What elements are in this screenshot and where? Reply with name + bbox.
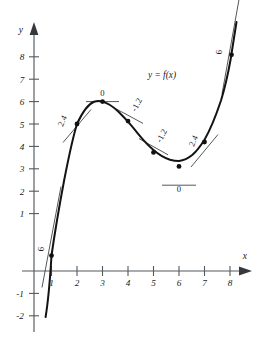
function-equation-label: y = f(x): [147, 70, 176, 81]
slope-label-at-x6: 0: [177, 184, 181, 194]
y-tick-label-neg2: -2: [16, 311, 24, 321]
point-at-x7: [202, 140, 207, 145]
x-tick-labels: 1 2 3 4 5 6 7 8: [49, 278, 233, 288]
tangent-at-x8: [222, 0, 240, 94]
slope-label-at-x8: 6: [214, 49, 224, 54]
function-curve: [46, 22, 237, 317]
curve-marked-points: [49, 52, 234, 258]
y-tick-label-neg1: -1: [16, 289, 24, 299]
slope-label-at-x1: 6: [36, 246, 46, 251]
x-tick-label-4: 4: [126, 278, 131, 288]
plot-canvas: 8 7 6 5 4 3 2 1 -1 -2 1 2 3 4 5 6 7 8 y …: [0, 0, 267, 344]
point-at-x8: [229, 52, 234, 57]
slope-label-at-x7: 2.4: [187, 133, 201, 148]
point-at-x3: [100, 99, 105, 104]
y-axis-arrowhead: [30, 22, 39, 35]
y-tick-label-7: 7: [20, 75, 25, 85]
slope-label-at-x3: 0: [100, 88, 104, 98]
y-tick-label-1: 1: [20, 209, 25, 219]
point-at-x1: [49, 253, 54, 258]
y-tick-label-5: 5: [20, 120, 25, 130]
slope-label-at-x2: 2.4: [56, 113, 70, 128]
slope-label-at-x4: -1.2: [129, 96, 144, 113]
x-axis-arrowhead: [239, 267, 252, 276]
x-axis-label: x: [242, 250, 248, 261]
y-tick-label-8: 8: [20, 52, 25, 62]
y-tick-labels: 8 7 6 5 4 3 2 1 -1 -2: [16, 52, 25, 321]
x-tick-label-3: 3: [99, 278, 105, 288]
point-at-x6: [177, 164, 182, 169]
axes-group: [22, 22, 252, 332]
slope-label-at-x5: -1.2: [154, 127, 169, 144]
function-graph-figure: 8 7 6 5 4 3 2 1 -1 -2 1 2 3 4 5 6 7 8 y …: [0, 0, 267, 344]
y-tick-label-3: 3: [19, 164, 25, 174]
y-tick-label-6: 6: [20, 97, 25, 107]
x-tick-label-6: 6: [177, 278, 182, 288]
point-at-x4: [126, 119, 131, 124]
x-tick-label-7: 7: [202, 278, 207, 288]
y-tick-label-2: 2: [20, 187, 25, 197]
x-tick-label-8: 8: [228, 278, 233, 288]
y-axis-label: y: [18, 24, 24, 35]
x-tick-label-2: 2: [75, 278, 80, 288]
x-tick-label-1: 1: [49, 278, 54, 288]
point-at-x2: [75, 122, 80, 127]
point-at-x5: [151, 150, 156, 155]
x-tick-label-5: 5: [151, 278, 156, 288]
y-tick-label-4: 4: [20, 142, 25, 152]
